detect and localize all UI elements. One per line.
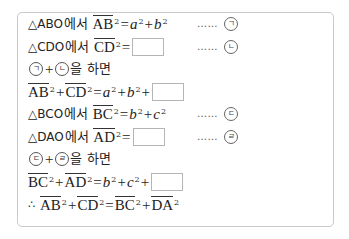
equation-tag-3: …… ㄷ [197,104,238,124]
korean-text: 에서 [64,14,88,34]
segment-bc: BC [93,104,113,124]
equation-tag-2: …… ㄴ [197,37,238,57]
circled-marker-icon: ㄹ [224,130,238,144]
equation-tag-1: …… ㄱ [197,14,238,34]
answer-blank-2[interactable] [152,83,184,101]
segment-cd: CD [94,37,115,57]
proof-line-9: ∴ AB2 + CD2 = BC2 + DA2 [28,195,179,215]
proof-line-7: ㄷ + ㄹ 을 하면 [28,149,111,169]
proof-line-6: △DAO 에서 AD2 = [28,127,165,147]
proof-line-1: △ABO 에서 AB2 = a2 + b2 [28,14,168,34]
segment-ab: AB [93,14,114,34]
proof-line-2: △CDO 에서 CD2 = [28,37,164,57]
circled-marker-icon: ㄷ [224,107,238,121]
circled-marker-icon: ㄹ [55,152,69,166]
answer-blank-4[interactable] [151,173,183,191]
triangle-label: △ABO [28,14,63,34]
circled-marker-icon: ㄱ [224,17,238,31]
proof-line-5: △BCO 에서 BC2 = b2 + c2 [28,104,166,124]
circled-marker-icon: ㄴ [224,40,238,54]
answer-blank-1[interactable] [132,38,164,56]
answer-blank-3[interactable] [133,128,165,146]
circled-marker-icon: ㄴ [55,62,69,76]
circled-marker-icon: ㄱ [29,62,43,76]
segment-ad: AD [93,127,115,147]
proof-line-3: ㄱ + ㄴ 을 하면 [28,59,111,79]
equation-tag-4: …… ㄹ [197,127,238,147]
proof-line-8: BC2 + AD2 = b2 + c2 + [28,172,183,192]
circled-marker-icon: ㄷ [29,152,43,166]
proof-line-4: AB2 + CD2 = a2 + b2 + [28,82,184,102]
therefore-symbol: ∴ [28,195,35,215]
